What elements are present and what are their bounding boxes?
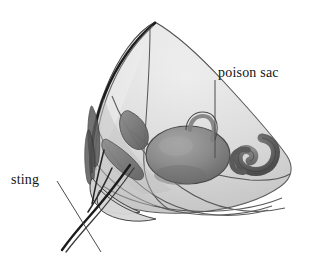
- sting-apparatus-drawing: [0, 0, 326, 270]
- label-sting: sting: [11, 173, 39, 187]
- illustration-figure: poison sac sting: [0, 0, 326, 270]
- label-poison-sac: poison sac: [218, 66, 279, 80]
